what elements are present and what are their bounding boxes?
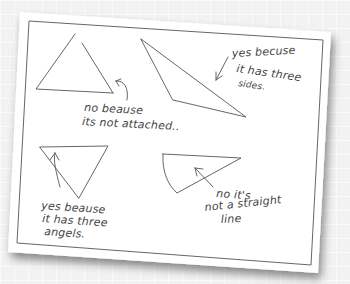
answer-line: line — [220, 212, 241, 226]
worksheet-scene: no beause its not attached.. yes becuse … — [0, 0, 350, 284]
